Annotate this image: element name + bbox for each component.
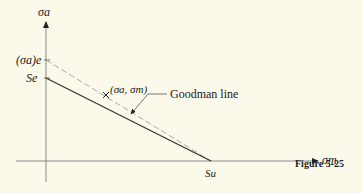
- point-label: (σa, σm): [110, 83, 147, 96]
- x-tick-label: Su: [205, 167, 217, 179]
- callout-leader: [131, 94, 167, 114]
- y-axis-label: σa: [38, 5, 50, 19]
- y-tick-upper-label: (σa)e: [16, 53, 42, 67]
- figure-caption: Figure 5-25: [295, 158, 344, 169]
- callout-label: Goodman line: [170, 87, 238, 101]
- dashed-line: [46, 60, 211, 161]
- goodman-diagram: σa (σa)e Se (σa, σm) Goodman line Su σm …: [0, 0, 363, 193]
- y-tick-lower-label: Se: [26, 71, 38, 85]
